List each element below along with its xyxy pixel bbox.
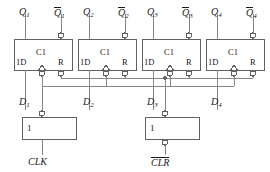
ff2-q-label: Q2 <box>83 7 94 17</box>
clr-buffer-symbol: 1 <box>150 124 155 133</box>
clk-signal-label: CLK <box>28 157 47 167</box>
ff4-pin-r: R <box>250 58 256 67</box>
ff1-qbar-bubble <box>58 33 63 38</box>
clr-bus-junction-dot <box>163 76 167 80</box>
ff4-pin-c1: C1 <box>228 48 238 57</box>
ff1-qbar-label: Q1 <box>54 7 65 19</box>
ff4-q-label: Q4 <box>211 7 222 17</box>
ff2-pin-c1: C1 <box>100 48 110 57</box>
ff3-pin-r: R <box>186 58 192 67</box>
ff1-r-bubble <box>58 71 63 76</box>
ff4-qbar-label: Q4 <box>246 7 257 19</box>
ff2-qbar-label: Q2 <box>118 7 129 19</box>
ff1-pin-r: R <box>58 58 64 67</box>
ff2-pin-r: R <box>122 58 128 67</box>
ff4-pin-1d: 1D <box>208 58 218 67</box>
circuit-schematic-svg <box>0 0 270 172</box>
ff3-q-label: Q3 <box>147 7 158 17</box>
ff3-pin-1d: 1D <box>144 58 154 67</box>
clk-buffer-output-bubble <box>39 111 44 116</box>
ff3-qbar-label: Q3 <box>182 7 193 19</box>
ff1-pin-1d: 1D <box>16 58 26 67</box>
ff4-r-bubble <box>250 71 255 76</box>
ff2-r-bubble <box>122 71 127 76</box>
clr-buffer-input-bubble <box>162 140 167 145</box>
clr-signal-label: CLR <box>151 157 169 169</box>
ff1-clk-bubble <box>39 71 44 76</box>
ff1-q-label: Q1 <box>19 7 30 17</box>
ff2-d-label: D2 <box>83 97 94 107</box>
ff3-qbar-bubble <box>186 33 191 38</box>
ff1-d-label: D1 <box>19 97 30 107</box>
ff4-clk-bubble <box>231 71 236 76</box>
ff2-clk-bubble <box>103 71 108 76</box>
ff2-qbar-bubble <box>122 33 127 38</box>
circuit-diagram: Q1 Q1 Q2 Q2 Q3 Q3 Q4 Q4 1D C1 R 1D C1 R … <box>0 0 270 172</box>
ff4-qbar-bubble <box>250 33 255 38</box>
ff3-clk-bubble <box>167 71 172 76</box>
ff3-d-label: D3 <box>147 97 158 107</box>
ff2-pin-1d: 1D <box>80 58 90 67</box>
ff3-pin-c1: C1 <box>164 48 174 57</box>
ff3-r-bubble <box>186 71 191 76</box>
clk-buffer-symbol: 1 <box>27 124 32 133</box>
ff4-d-label: D4 <box>211 97 222 107</box>
ff1-pin-c1: C1 <box>36 48 46 57</box>
clr-buffer-output-bubble <box>162 111 167 116</box>
